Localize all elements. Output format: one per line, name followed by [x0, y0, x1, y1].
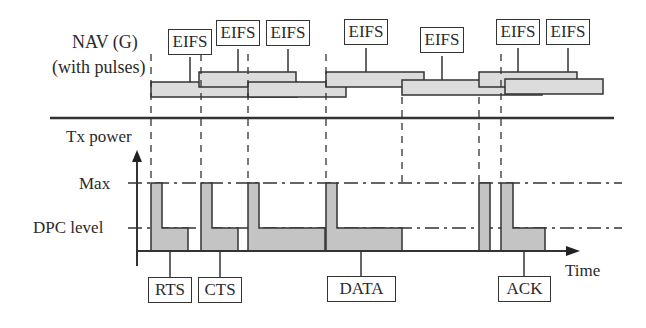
- eifs-label: EIFS: [344, 19, 388, 45]
- nav-subtitle: (with pulses): [52, 58, 146, 76]
- x-axis-label: Time: [565, 262, 600, 279]
- level-dpc-label: DPC level: [33, 219, 103, 236]
- nav-bars: [151, 72, 603, 97]
- eifs-label: EIFS: [168, 29, 212, 55]
- y-axis-arrow: [132, 150, 142, 162]
- x-axis-arrow: [566, 246, 580, 256]
- level-max-label: Max: [79, 175, 110, 192]
- power-pulses: [151, 183, 545, 251]
- eifs-label: EIFS: [216, 20, 260, 46]
- eifs-label: EIFS: [546, 19, 590, 45]
- frame-cts: CTS: [198, 277, 242, 303]
- eifs-label: EIFS: [496, 19, 540, 45]
- frame-rts: RTS: [148, 277, 192, 303]
- y-axis-label: Tx power: [66, 128, 132, 145]
- eifs-label: EIFS: [420, 27, 464, 53]
- nav-title: NAV (G): [72, 33, 138, 51]
- eifs-label: EIFS: [266, 20, 310, 46]
- frame-data: DATA: [327, 276, 396, 302]
- frame-ack: ACK: [498, 276, 551, 302]
